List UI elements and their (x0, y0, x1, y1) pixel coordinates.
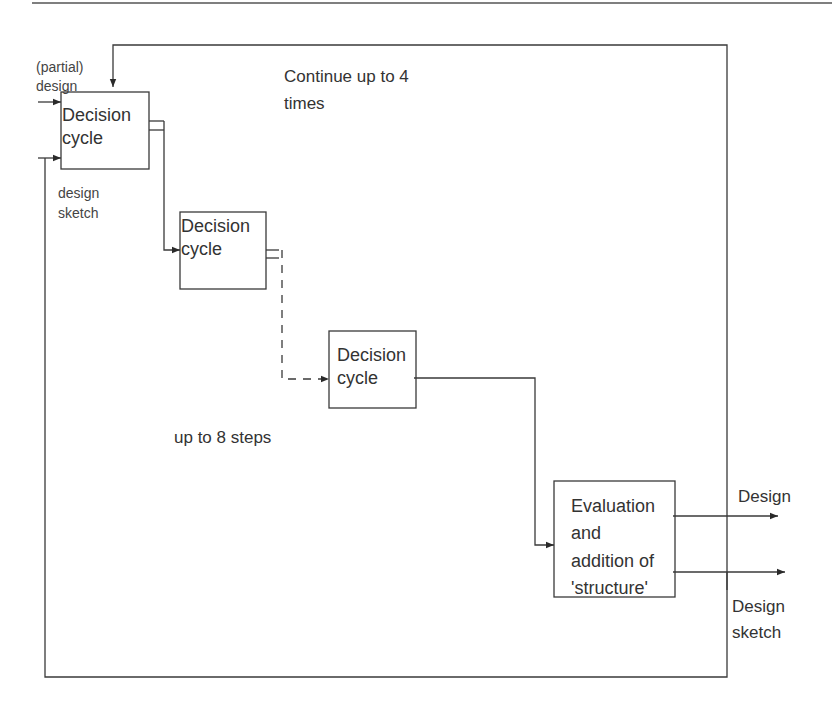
loop-note-label: Continue up to 4 times (284, 63, 409, 117)
evaluation-node: Evaluation and addition of 'structure' (571, 493, 655, 602)
output-design-sketch-label: Design sketch (732, 594, 785, 647)
steps-note-label: up to 8 steps (174, 427, 271, 448)
output-design-label: Design (738, 486, 791, 507)
input-partial-design-label: (partial) design (36, 58, 83, 96)
input-design-sketch-label: design sketch (58, 183, 99, 224)
decision-cycle-3: Decision cycle (337, 344, 406, 391)
decision-cycle-2: Decision cycle (181, 215, 250, 262)
decision-cycle-1: Decision cycle (62, 104, 131, 151)
